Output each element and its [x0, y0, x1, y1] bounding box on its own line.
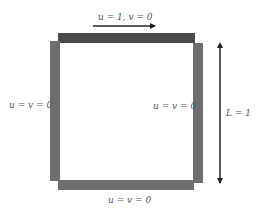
- bottom-boundary-label: u = v = 0: [108, 195, 151, 205]
- left-boundary-label: u = v = 0: [9, 100, 52, 110]
- right-boundary-label: u = v = 0: [153, 101, 196, 111]
- bottom-wall: [58, 180, 194, 190]
- top-wall-lid: [58, 33, 195, 43]
- length-label: L = 1: [226, 108, 251, 118]
- right-wall: [193, 43, 203, 183]
- left-wall: [50, 41, 60, 181]
- cavity-diagram: u = 1, v = 0 u = v = 0 u = v = 0 u = v =…: [0, 0, 259, 209]
- top-boundary-label: u = 1, v = 0: [98, 12, 153, 22]
